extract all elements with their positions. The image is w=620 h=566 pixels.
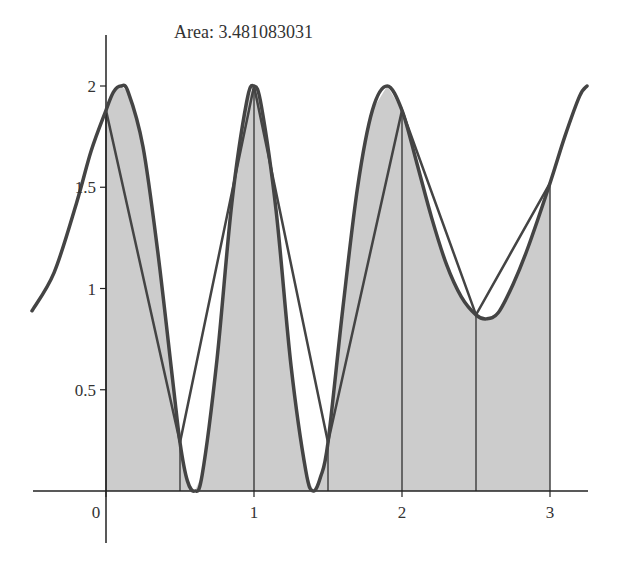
trapezoid-area-chart: 01230.511.52	[0, 0, 620, 566]
y-tick-label: 1.5	[75, 178, 96, 197]
x-tick-label: 2	[398, 503, 407, 522]
x-tick-label: 0	[92, 503, 101, 522]
y-tick-label: 2	[88, 77, 97, 96]
x-tick-label: 3	[546, 503, 555, 522]
y-tick-label: 0.5	[75, 381, 96, 400]
x-tick-label: 1	[250, 503, 259, 522]
y-tick-label: 1	[88, 280, 97, 299]
